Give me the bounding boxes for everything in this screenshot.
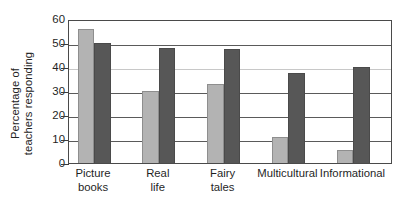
- bar-light-gray-series-4: [337, 150, 354, 163]
- x-label-line: tales: [190, 180, 255, 194]
- x-label-line: Real: [125, 166, 190, 180]
- x-axis-label-0: Picturebooks: [61, 166, 126, 194]
- bar-light-gray-series-3: [272, 137, 289, 163]
- bar-chart: Percentage of teachers responding 010203…: [0, 0, 405, 207]
- x-label-line: books: [61, 180, 126, 194]
- x-label-line: Multicultural: [255, 166, 320, 180]
- x-label-line: Fairy: [190, 166, 255, 180]
- x-axis-label-1: Reallife: [125, 166, 190, 194]
- tick-mark-0: [61, 164, 69, 165]
- bar-light-gray-series-0: [78, 29, 95, 163]
- x-label-line: Informational: [320, 166, 385, 180]
- x-axis-label-3: Multicultural: [255, 166, 320, 180]
- bar-dark-gray-series-3: [288, 73, 305, 163]
- x-axis-label-4: Informational: [320, 166, 385, 180]
- bar-dark-gray-series-1: [159, 48, 176, 163]
- y-axis-title: Percentage of teachers responding: [0, 0, 44, 207]
- bar-dark-gray-series-4: [353, 67, 370, 163]
- bar-light-gray-series-2: [207, 84, 224, 163]
- bar-dark-gray-series-2: [224, 49, 241, 163]
- bar-dark-gray-series-0: [94, 43, 111, 163]
- x-axis-label-2: Fairytales: [190, 166, 255, 194]
- x-label-line: Picture: [61, 166, 126, 180]
- bar-light-gray-series-1: [142, 91, 159, 163]
- bars-layer: [69, 21, 391, 163]
- x-label-line: life: [125, 180, 190, 194]
- plot-area: [68, 20, 392, 164]
- y-axis-title-line-1: Percentage of: [9, 52, 22, 155]
- x-axis-category-labels: PicturebooksReallifeFairytalesMulticultu…: [68, 166, 392, 206]
- y-axis-title-line-2: teachers responding: [22, 52, 35, 155]
